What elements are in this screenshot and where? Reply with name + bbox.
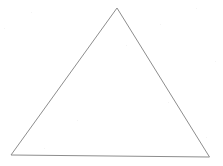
triangle-drawing xyxy=(0,0,223,166)
triangle-shape xyxy=(11,8,210,157)
figure-canvas: Triangle Figure xyxy=(0,0,223,166)
